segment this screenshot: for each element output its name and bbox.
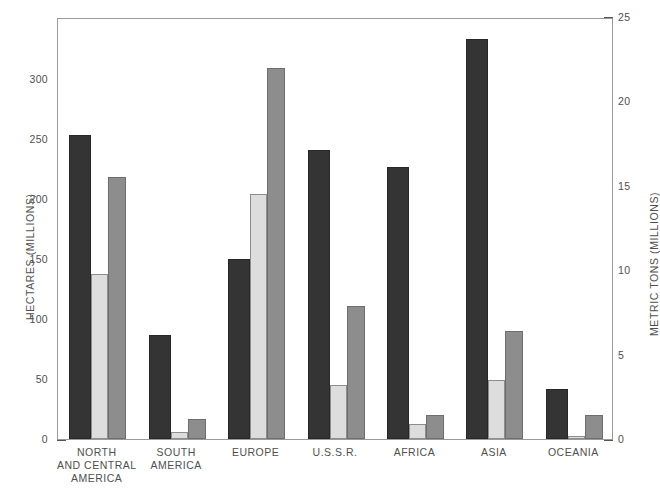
x-axis-category-label-line: AMERICA [136, 459, 215, 472]
x-axis-category-label: AFRICA [375, 446, 454, 459]
y-axis-left-tick-label: 300 [8, 73, 48, 85]
y-axis-right-tick-label: 25 [618, 11, 658, 23]
y-axis-right-tick-label: 15 [618, 180, 658, 192]
bar [171, 432, 188, 439]
bar [488, 380, 505, 439]
y-axis-right-ticks: 0510152025 [618, 18, 658, 440]
bar [228, 259, 250, 439]
bar [188, 419, 206, 439]
x-axis-category-label: SOUTHAMERICA [136, 446, 215, 472]
bar [466, 39, 488, 439]
y-axis-left-tick-label: 150 [8, 253, 48, 265]
bar [108, 177, 126, 439]
bar [267, 68, 285, 439]
x-axis-category-label: OCEANIA [534, 446, 613, 459]
bar [409, 424, 426, 439]
x-axis-category-label-line: U.S.S.R. [295, 446, 374, 459]
y-axis-left-tick-label: 50 [8, 373, 48, 385]
y-axis-right-tick-label: 10 [618, 264, 658, 276]
bar [330, 385, 347, 439]
bar [91, 274, 108, 439]
x-axis-category-label-line: NORTH [57, 446, 136, 459]
x-axis-category-label-line: ASIA [454, 446, 533, 459]
y-axis-left-tick-label: 250 [8, 133, 48, 145]
y-axis-left-tick-label: 100 [8, 313, 48, 325]
bar [149, 335, 171, 439]
bar [585, 415, 603, 439]
bar [308, 150, 330, 439]
bar [546, 389, 568, 439]
bar [568, 436, 585, 439]
bar [69, 135, 91, 440]
x-axis-category-label: ASIA [454, 446, 533, 459]
y-axis-left-ticks: 050100150200250300 [0, 18, 48, 440]
bar [505, 331, 523, 439]
x-axis-category-label-line: SOUTH [136, 446, 215, 459]
x-axis-category-label: EUROPE [216, 446, 295, 459]
y-axis-right-tick-label: 20 [618, 95, 658, 107]
y-axis-left-tick-label: 200 [8, 193, 48, 205]
bar [347, 306, 365, 439]
x-axis-category-label: U.S.S.R. [295, 446, 374, 459]
x-axis-category-label: NORTHAND CENTRALAMERICA [57, 446, 136, 485]
bar [387, 167, 409, 439]
y-axis-right-tick-label: 5 [618, 349, 658, 361]
plot-area [57, 18, 613, 440]
bar [426, 415, 444, 439]
x-axis-category-label-line: EUROPE [216, 446, 295, 459]
y-axis-right-tick-label: 0 [618, 433, 658, 445]
x-axis-category-label-line: AFRICA [375, 446, 454, 459]
x-axis-category-label-line: AND CENTRAL [57, 459, 136, 472]
bar [250, 194, 267, 439]
x-axis-category-label-line: AMERICA [57, 472, 136, 485]
y-axis-left-tick-label: 0 [8, 433, 48, 445]
x-axis-category-label-line: OCEANIA [534, 446, 613, 459]
